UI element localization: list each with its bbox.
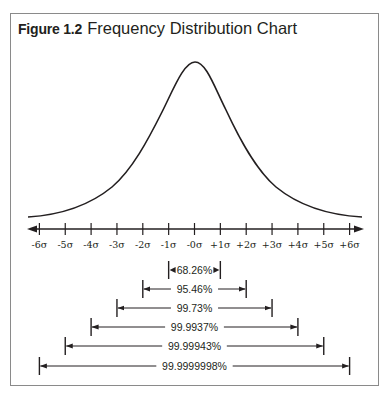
x-tick-label: +1σ — [210, 239, 231, 250]
interval-bracket: 95.46% — [143, 280, 246, 298]
interval-label: 68.26% — [177, 264, 213, 276]
interval-bracket: 99.73% — [117, 299, 272, 317]
interval-bracket: 99.9937% — [91, 318, 298, 336]
interval-label: 99.73% — [177, 302, 213, 314]
x-tick-label: -4σ — [83, 239, 99, 250]
interval-label: 99.99943% — [168, 340, 221, 352]
interval-label: 99.9937% — [171, 321, 218, 333]
x-tick-label: -5σ — [57, 239, 73, 250]
x-tick-label: -1σ — [161, 239, 177, 250]
x-tick-label: +5σ — [314, 239, 335, 250]
interval-bracket: 99.99943% — [65, 337, 324, 355]
x-tick-label: +3σ — [262, 239, 283, 250]
interval-label: 95.46% — [177, 283, 213, 295]
x-tick-label: -0σ — [187, 239, 203, 250]
chart-plot: -6σ-5σ-4σ-3σ-2σ-1σ-0σ+1σ+2σ+3σ+4σ+5σ+6σ … — [0, 0, 388, 393]
x-axis-tick-labels: -6σ-5σ-4σ-3σ-2σ-1σ-0σ+1σ+2σ+3σ+4σ+5σ+6σ — [32, 239, 361, 250]
sigma-intervals: 68.26%95.46%99.73%99.9937%99.99943%99.99… — [39, 261, 349, 375]
x-tick-label: -2σ — [135, 239, 151, 250]
frequency-curve — [28, 62, 362, 217]
x-tick-label: -3σ — [109, 239, 125, 250]
interval-bracket: 99.9999998% — [39, 357, 349, 375]
x-tick-label: +2σ — [236, 239, 257, 250]
interval-label: 99.9999998% — [162, 360, 227, 372]
x-tick-label: +6σ — [339, 239, 360, 250]
x-axis — [27, 226, 364, 233]
interval-bracket: 68.26% — [169, 261, 221, 279]
x-tick-label: -6σ — [32, 239, 48, 250]
x-tick-label: +4σ — [288, 239, 309, 250]
